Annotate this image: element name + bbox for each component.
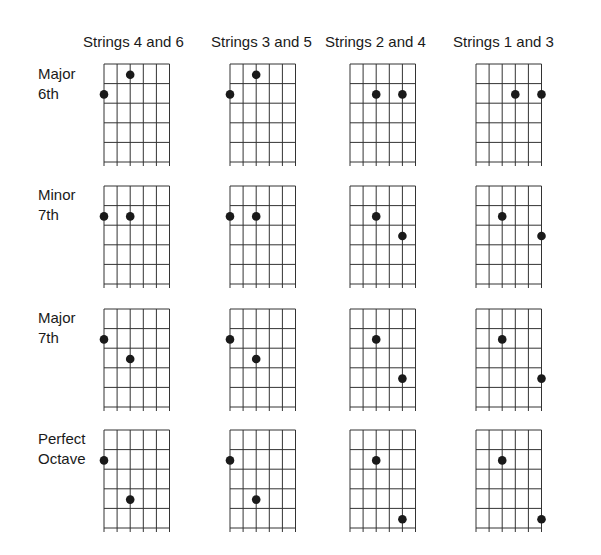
finger-dot <box>252 495 261 504</box>
fretboard-diagrams <box>0 0 601 555</box>
finger-dot <box>537 90 546 99</box>
finger-dot <box>372 212 381 221</box>
finger-dot <box>511 90 520 99</box>
fret-diagram <box>350 186 416 288</box>
fret-diagram <box>100 309 170 411</box>
finger-dot <box>252 355 261 364</box>
finger-dot <box>226 90 235 99</box>
finger-dot <box>126 212 135 221</box>
fret-diagram <box>100 186 170 288</box>
finger-dot <box>372 335 381 344</box>
fret-diagram <box>350 64 416 166</box>
fret-diagram <box>226 309 296 411</box>
fret-diagram <box>476 309 546 411</box>
finger-dot <box>126 355 135 364</box>
finger-dot <box>226 335 235 344</box>
finger-dot <box>398 90 407 99</box>
fret-diagram <box>476 64 546 166</box>
finger-dot <box>252 212 261 221</box>
finger-dot <box>537 374 546 383</box>
fret-diagram <box>226 186 296 288</box>
finger-dot <box>498 456 507 465</box>
finger-dot <box>226 456 235 465</box>
fret-diagram <box>476 186 546 288</box>
finger-dot <box>498 335 507 344</box>
finger-dot <box>100 212 109 221</box>
finger-dot <box>100 335 109 344</box>
fret-diagram <box>100 430 170 532</box>
fret-diagram <box>100 64 170 166</box>
fret-diagram <box>226 64 296 166</box>
finger-dot <box>126 495 135 504</box>
finger-dot <box>537 232 546 241</box>
finger-dot <box>372 90 381 99</box>
finger-dot <box>100 456 109 465</box>
finger-dot <box>252 71 261 80</box>
finger-dot <box>498 212 507 221</box>
finger-dot <box>537 515 546 524</box>
finger-dot <box>372 456 381 465</box>
finger-dot <box>226 212 235 221</box>
fret-diagram <box>350 309 416 411</box>
finger-dot <box>126 71 135 80</box>
finger-dot <box>398 232 407 241</box>
fret-diagram <box>476 430 546 532</box>
finger-dot <box>398 374 407 383</box>
finger-dot <box>100 90 109 99</box>
fret-diagram <box>350 430 416 532</box>
finger-dot <box>398 515 407 524</box>
fret-diagram <box>226 430 296 532</box>
